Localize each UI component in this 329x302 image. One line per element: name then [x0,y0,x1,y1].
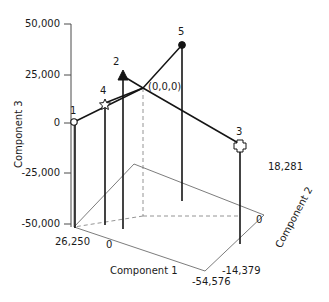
point-label-1: 1 [70,106,76,116]
vector-to-point-4 [105,88,143,103]
x-tick-label-right: -54,576 [192,277,231,287]
point-label-2: 2 [113,57,119,67]
x-tick-label-mid: 0 [106,240,112,250]
floor-outline [74,164,264,271]
hidden-edges [74,88,240,227]
z-tick-label-neg50000: -50,000 [4,219,60,229]
loading-vectors [74,45,240,144]
x-tick-label-left: 26,250 [55,237,90,247]
z-tick-label-neg25000: -25,000 [4,168,60,178]
scatter3d-chart: 50,000 25,000 0 -25,000 -50,000 Componen… [0,0,329,302]
origin-annotation: (0,0,0) [148,82,181,92]
z-tick-label-25000: 25,000 [8,70,60,80]
dashed-floor-left [74,216,143,227]
z-axis-title: Component 3 [14,100,24,168]
marker-point-2 [118,70,128,80]
point-label-3: 3 [236,127,242,137]
y-tick-label-mid: 0 [256,215,262,225]
drop-lines [75,48,240,244]
y-tick-label-far: 18,281 [268,162,303,172]
marker-point-1 [71,119,77,125]
y-tick-label-near: -14,379 [222,266,261,276]
chart-canvas [0,0,329,302]
point-label-5: 5 [178,27,184,37]
z-axis [64,24,71,227]
marker-point-5 [179,42,186,49]
vector-to-point-3 [143,88,240,144]
x-axis-title: Component 1 [110,266,178,276]
z-tick-label-50000: 50,000 [8,19,60,29]
point-label-4: 4 [100,86,106,96]
